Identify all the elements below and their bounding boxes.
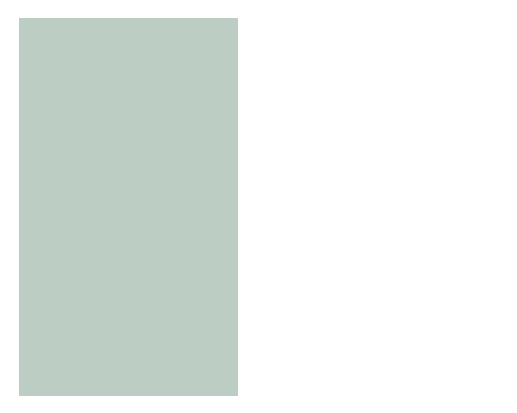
seismic-diagram: [0, 0, 517, 413]
diagram-canvas: [0, 0, 517, 413]
background-panel: [19, 18, 238, 396]
